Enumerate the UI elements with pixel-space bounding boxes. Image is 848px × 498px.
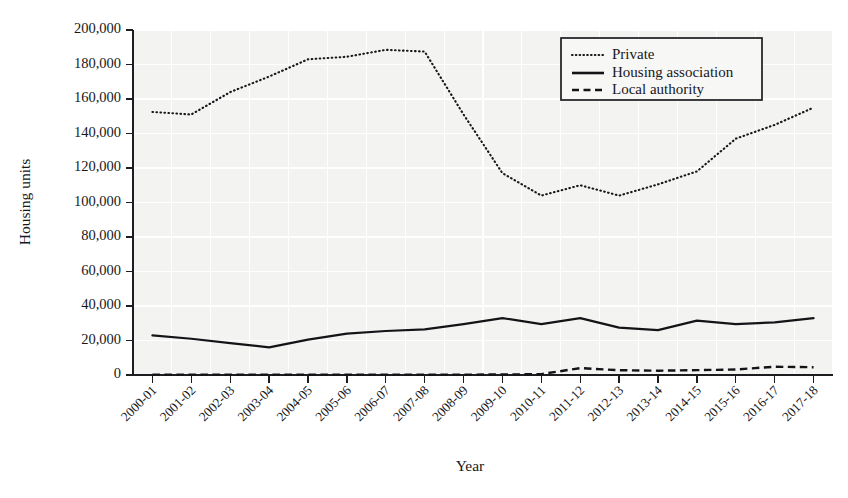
x-tick-label: 2015-16 — [701, 382, 743, 424]
y-tick-label: 0 — [114, 365, 121, 381]
legend-label-private: Private — [612, 46, 655, 62]
y-tick-label: 40,000 — [81, 296, 121, 312]
y-tick-label: 140,000 — [74, 124, 121, 140]
y-tick-label: 60,000 — [81, 262, 121, 278]
chart-figure: 020,00040,00060,00080,000100,000120,0001… — [0, 0, 848, 498]
y-tick-label: 100,000 — [74, 193, 121, 209]
x-tick-label: 2009-10 — [468, 382, 510, 424]
x-tick-label: 2017-18 — [779, 382, 821, 424]
y-tick-label: 80,000 — [81, 227, 121, 243]
x-tick-label: 2002-03 — [196, 382, 238, 424]
x-tick-label: 2010-11 — [507, 383, 548, 424]
y-tick-label: 20,000 — [81, 331, 121, 347]
legend-label-housing-association: Housing association — [612, 64, 734, 80]
x-tick-label: 2001-02 — [157, 383, 199, 425]
y-tick-label: 160,000 — [74, 89, 121, 105]
x-tick-label: 2004-05 — [273, 382, 315, 424]
housing-units-line-chart: 020,00040,00060,00080,000100,000120,0001… — [0, 0, 848, 498]
x-tick-label: 2008-09 — [429, 382, 471, 424]
x-axis-title: Year — [456, 457, 485, 474]
y-axis-ticks: 020,00040,00060,00080,000100,000120,0001… — [74, 20, 133, 381]
chart-legend: Private Housing association Local author… — [561, 38, 762, 100]
x-tick-label: 2005-06 — [312, 382, 354, 424]
x-tick-label: 2007-08 — [390, 382, 432, 424]
x-tick-label: 2006-07 — [351, 382, 393, 424]
y-tick-label: 120,000 — [74, 158, 121, 174]
x-tick-label: 2011-12 — [546, 383, 587, 424]
x-tick-label: 2013-14 — [623, 382, 665, 424]
y-tick-label: 200,000 — [74, 20, 121, 36]
x-tick-label: 2016-17 — [740, 382, 782, 424]
legend-label-local-authority: Local authority — [612, 81, 705, 97]
x-tick-label: 2000-01 — [118, 383, 160, 425]
y-axis-title: Housing units — [16, 159, 33, 246]
x-tick-label: 2003-04 — [235, 382, 277, 424]
x-tick-label: 2014-15 — [662, 382, 704, 424]
x-axis-title-text: Year — [456, 457, 485, 474]
y-tick-label: 180,000 — [74, 55, 121, 71]
x-axis-ticks: 2000-012001-022002-032003-042004-052005-… — [118, 375, 821, 424]
x-tick-label: 2012-13 — [585, 382, 627, 424]
y-axis-title-text: Housing units — [16, 159, 33, 246]
